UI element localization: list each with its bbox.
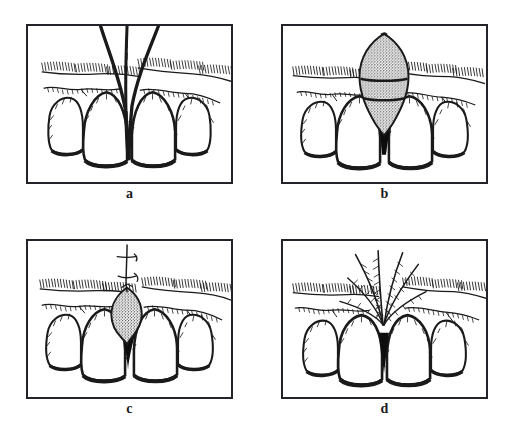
tooth-lateral-right <box>431 321 466 376</box>
panel-d-caption: d <box>281 401 488 417</box>
panel-b-frame <box>281 24 488 184</box>
tooth-central-left <box>338 315 382 385</box>
panel-b-illustration <box>283 26 486 182</box>
right-mucosa-hatch-upper <box>403 277 486 298</box>
panel-grid: a <box>0 0 510 431</box>
tooth-lateral-right <box>178 315 213 370</box>
panel-a: a <box>0 0 255 215</box>
panel-c-illustration <box>28 241 231 397</box>
left-mucosa-hatch-upper <box>293 283 380 297</box>
panel-b: b <box>255 0 510 215</box>
panel-c-frame <box>26 239 233 399</box>
panel-a-frame <box>26 24 233 184</box>
panel-a-caption: a <box>26 186 233 202</box>
tooth-central-right <box>132 92 175 166</box>
panel-c: c <box>0 215 255 430</box>
right-mucosa-hatch-upper <box>142 277 231 300</box>
tooth-lateral-left <box>46 315 81 370</box>
tooth-lateral-left <box>303 321 338 376</box>
right-mucosa-hatch-upper <box>397 62 485 83</box>
panel-c-caption: c <box>26 401 233 417</box>
panel-b-caption: b <box>281 186 488 202</box>
tooth-central-left <box>83 92 127 166</box>
tooth-lateral-right <box>433 102 468 157</box>
panel-d: d <box>255 215 510 430</box>
tooth-lateral-left <box>48 98 83 155</box>
tooth-lateral-right <box>176 98 211 155</box>
tooth-lateral-left <box>301 102 336 157</box>
panel-d-illustration <box>283 241 486 397</box>
right-mucosa-hatch-upper <box>138 58 231 81</box>
tooth-central-right <box>387 315 430 385</box>
panel-d-frame <box>281 239 488 399</box>
panel-a-illustration <box>28 26 231 182</box>
figure-root: a <box>0 0 510 431</box>
